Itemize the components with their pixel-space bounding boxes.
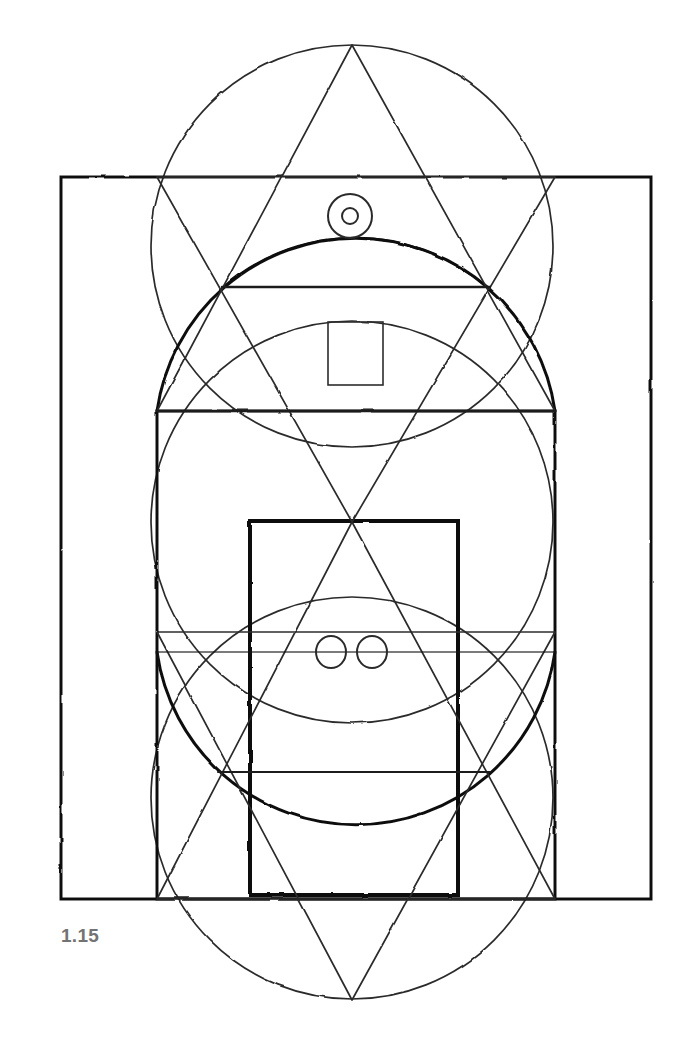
figure-root: 1.15 [0, 0, 690, 1043]
figure-caption: 1.15 [61, 925, 99, 947]
geometric-construction-drawing [0, 0, 690, 1043]
